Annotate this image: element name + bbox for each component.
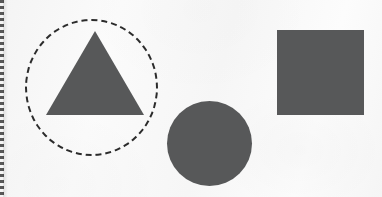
filled-circle[interactable] [167, 101, 252, 186]
figure-canvas: Geometric shapes on paper Dashed circle … [0, 0, 382, 197]
shape-layer [0, 0, 382, 197]
filled-triangle[interactable] [46, 31, 144, 115]
filled-square[interactable] [277, 30, 364, 115]
